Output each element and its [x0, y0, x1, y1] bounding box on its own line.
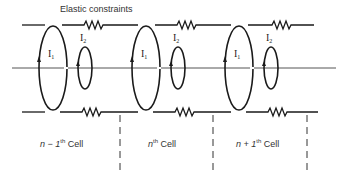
cell-label-n-minus-1: n − 1th Cell [40, 138, 83, 149]
arrow-up-icon [130, 56, 134, 62]
i2-label: I2 [266, 32, 272, 44]
magnetic-levitation-cell-diagram: Elastic constraints I1 I2 I1 I2 [0, 0, 344, 179]
i2-label: I2 [173, 32, 179, 44]
i1-label: I1 [48, 48, 54, 60]
bottom-rail [22, 108, 318, 116]
i2-label: I2 [80, 32, 86, 44]
arrow-up-icon [37, 56, 41, 62]
cell-label-n-plus-1: n + 1th Cell [236, 138, 279, 149]
elastic-constraints-label: Elastic constraints [60, 4, 133, 14]
arrow-up-icon [169, 61, 173, 66]
i1-label: I1 [234, 48, 240, 60]
i1-label: I1 [141, 48, 147, 60]
top-rail [22, 21, 314, 29]
arrow-up-icon [262, 61, 266, 66]
arrow-up-icon [223, 56, 227, 62]
cell-label-n: nth Cell [148, 138, 176, 149]
arrow-up-icon [76, 61, 80, 66]
